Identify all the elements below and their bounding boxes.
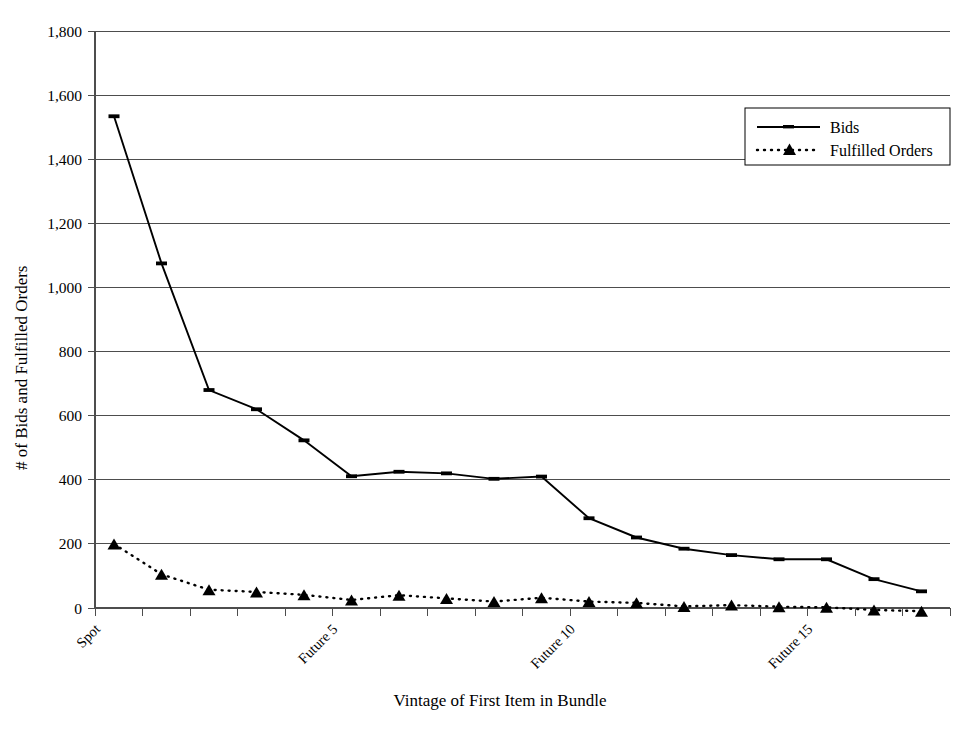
y-tick-marks-group bbox=[88, 31, 95, 608]
y-tick-label-800: 800 bbox=[59, 343, 83, 360]
y-tick-label-1800: 1,800 bbox=[47, 23, 82, 40]
x-tick-label-future-15: Future 15 bbox=[765, 621, 816, 672]
data-point-fulfilled-orders-13 bbox=[725, 600, 738, 611]
data-point-bids-5 bbox=[346, 474, 357, 478]
data-point-bids-9 bbox=[536, 475, 547, 479]
legend-label-bids: Bids bbox=[830, 119, 859, 136]
data-point-bids-8 bbox=[489, 477, 500, 481]
x-tick-label-future-5: Future 5 bbox=[295, 621, 341, 667]
x-tick-label-future-10: Future 10 bbox=[527, 621, 578, 672]
y-tick-label-600: 600 bbox=[59, 407, 83, 424]
data-point-bids-6 bbox=[394, 470, 405, 474]
y-axis-title: # of Bids and Fulfilled Orders bbox=[12, 266, 31, 470]
data-point-bids-12 bbox=[679, 547, 690, 551]
y-tick-label-400: 400 bbox=[59, 471, 83, 488]
data-point-bids-17 bbox=[916, 589, 927, 593]
y-tick-label-0: 0 bbox=[74, 600, 82, 617]
y-tick-label-1000: 1,000 bbox=[47, 279, 82, 296]
y-tick-label-200: 200 bbox=[59, 535, 83, 552]
data-point-bids-2 bbox=[204, 388, 215, 392]
y-tick-label-1600: 1,600 bbox=[47, 87, 82, 104]
data-point-bids-11 bbox=[631, 536, 642, 540]
series-layer bbox=[108, 114, 929, 616]
data-point-bids-10 bbox=[584, 516, 595, 520]
x-tick-labels-group: SpotFuture 5Future 10Future 15 bbox=[73, 621, 816, 672]
chart-legend: Bids Fulfilled Orders bbox=[745, 108, 950, 165]
data-point-bids-1 bbox=[156, 262, 167, 266]
chart-figure: 02004006008001,0001,2001,4001,6001,800 S… bbox=[0, 0, 971, 738]
data-point-fulfilled-orders-3 bbox=[250, 586, 263, 597]
data-point-bids-7 bbox=[441, 471, 452, 475]
y-tick-label-1400: 1,400 bbox=[47, 151, 82, 168]
data-point-bids-15 bbox=[821, 557, 832, 561]
data-point-bids-0 bbox=[109, 114, 120, 118]
series-line-fulfilled-orders bbox=[114, 544, 922, 611]
x-axis-title: Vintage of First Item in Bundle bbox=[394, 691, 607, 710]
data-point-bids-13 bbox=[726, 553, 737, 557]
x-tick-label-spot: Spot bbox=[73, 621, 103, 651]
y-tick-label-1200: 1,200 bbox=[47, 215, 82, 232]
series-line-bids bbox=[114, 116, 922, 591]
data-point-bids-16 bbox=[869, 577, 880, 581]
line-chart: 02004006008001,0001,2001,4001,6001,800 S… bbox=[0, 0, 971, 738]
data-point-bids-14 bbox=[774, 557, 785, 561]
data-point-fulfilled-orders-8 bbox=[488, 596, 501, 607]
legend-label-fulfilled: Fulfilled Orders bbox=[830, 142, 933, 159]
data-point-fulfilled-orders-17 bbox=[915, 606, 928, 617]
legend-marker-bids bbox=[783, 125, 794, 128]
data-point-bids-3 bbox=[251, 407, 262, 411]
data-point-bids-4 bbox=[299, 438, 310, 442]
y-tick-labels-group: 02004006008001,0001,2001,4001,6001,800 bbox=[47, 23, 82, 617]
